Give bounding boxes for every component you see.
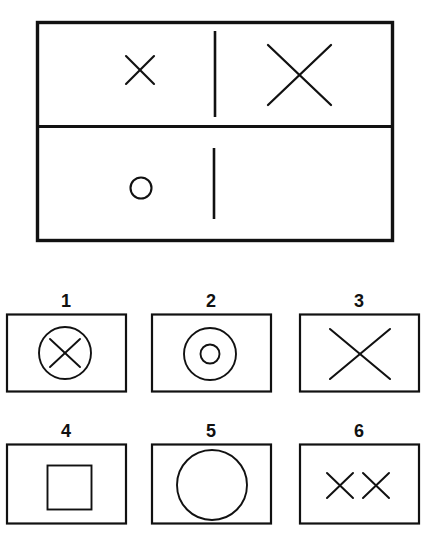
outer-circle-icon	[184, 328, 236, 380]
option-5-box[interactable]	[152, 445, 271, 524]
square-icon	[48, 466, 92, 510]
option-4[interactable]	[7, 445, 126, 524]
option-2-label: 2	[196, 291, 226, 311]
option-4-box[interactable]	[7, 445, 126, 524]
option-6-label: 6	[344, 421, 374, 441]
option-5[interactable]	[152, 445, 271, 524]
matrix-cell-r2c1	[131, 148, 215, 219]
large-circle-icon	[177, 450, 247, 520]
inner-circle-icon	[201, 345, 220, 364]
option-6[interactable]	[300, 445, 419, 524]
option-3-label: 3	[344, 291, 374, 311]
option-1[interactable]	[7, 315, 126, 392]
matrix-reasoning-item: 1 2 3 4 5 6	[0, 0, 430, 546]
option-1-label: 1	[51, 291, 81, 311]
option-1-box[interactable]	[7, 315, 126, 392]
option-5-label: 5	[196, 421, 226, 441]
x-mark-left-icon	[327, 473, 353, 498]
option-4-label: 4	[51, 421, 81, 441]
option-3[interactable]	[300, 315, 419, 392]
option-2[interactable]	[152, 315, 271, 392]
option-6-box[interactable]	[300, 445, 419, 524]
small-circle-icon	[131, 178, 152, 199]
large-x-mark-icon	[268, 45, 331, 105]
small-x-mark-icon	[126, 56, 154, 84]
puzzle-canvas	[0, 0, 430, 546]
x-mark-icon	[50, 339, 80, 367]
large-x-icon	[330, 329, 390, 379]
x-mark-right-icon	[363, 473, 389, 498]
matrix-cell-r1c1	[126, 31, 215, 117]
matrix-cell-r1c2	[268, 45, 331, 105]
